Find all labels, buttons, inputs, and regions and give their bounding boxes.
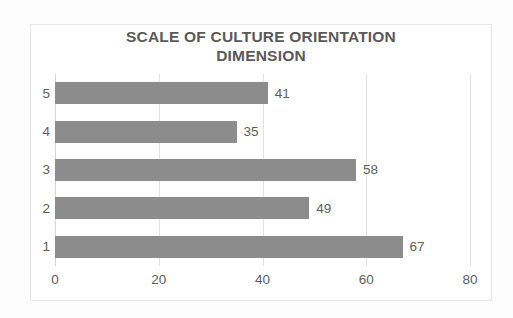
bar-row: 35 xyxy=(55,112,470,150)
y-axis-tick-label: 3 xyxy=(28,151,50,189)
x-axis-tick-label: 40 xyxy=(255,272,270,287)
chart-title-line-2: DIMENSION xyxy=(30,46,492,65)
bar-value-label: 35 xyxy=(244,124,259,139)
x-axis-tick-label: 0 xyxy=(51,272,59,287)
bar xyxy=(55,197,309,219)
y-axis-tick-label: 2 xyxy=(28,189,50,227)
x-axis-tick-labels: 020406080 xyxy=(55,272,470,292)
y-axis-tick-label: 1 xyxy=(28,228,50,266)
bar xyxy=(55,236,403,258)
chart-title: SCALE OF CULTURE ORIENTATION DIMENSION xyxy=(30,27,492,65)
y-axis-tick-label: 5 xyxy=(28,74,50,112)
bar-value-label: 58 xyxy=(363,162,378,177)
bar-value-label: 49 xyxy=(316,201,331,216)
bar xyxy=(55,159,356,181)
bar-row: 67 xyxy=(55,228,470,266)
y-axis-category-labels: 54321 xyxy=(28,74,50,266)
y-axis-tick-label: 4 xyxy=(28,112,50,150)
plot-area: 4135584967 xyxy=(55,74,470,266)
bar-row: 58 xyxy=(55,151,470,189)
bar-row: 49 xyxy=(55,189,470,227)
x-axis-tick-label: 80 xyxy=(462,272,477,287)
bar-value-label: 67 xyxy=(410,239,425,254)
bar-series: 4135584967 xyxy=(55,74,470,266)
chart-screenshot: SCALE OF CULTURE ORIENTATION DIMENSION 5… xyxy=(0,0,513,318)
chart-title-line-1: SCALE OF CULTURE ORIENTATION xyxy=(30,27,492,46)
bar-value-label: 41 xyxy=(275,86,290,101)
bar xyxy=(55,121,237,143)
x-axis-tick-label: 20 xyxy=(151,272,166,287)
bar-row: 41 xyxy=(55,74,470,112)
bar xyxy=(55,82,268,104)
x-axis-tick-label: 60 xyxy=(359,272,374,287)
